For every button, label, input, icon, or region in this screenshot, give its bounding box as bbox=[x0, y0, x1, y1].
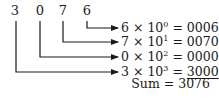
sum-line: Sum = 3076 bbox=[131, 77, 210, 91]
arrow-hundreds bbox=[40, 21, 118, 57]
expansion-row-ones: 6 × 100 = 0006 bbox=[121, 21, 219, 35]
expansion-row-hundreds: 0 × 102 = 0000 bbox=[121, 50, 219, 64]
sum-value: 3076 bbox=[178, 76, 210, 91]
arrow-ones bbox=[87, 21, 118, 28]
arrow-tens bbox=[63, 21, 118, 42]
arrow-thousands bbox=[16, 21, 118, 72]
expansion-row-tens: 7 × 101 = 0070 bbox=[121, 35, 219, 49]
